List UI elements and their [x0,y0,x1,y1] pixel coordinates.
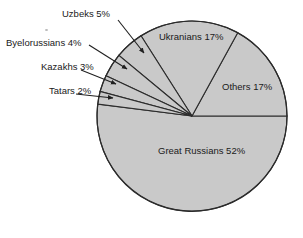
callout-label-byelorussians: Byelorussians 4% [6,37,82,48]
pie-slices [97,21,287,211]
slice-label-others: Others 17% [222,81,272,92]
scan-speck [45,29,48,31]
slice-great-russians[interactable] [97,104,287,211]
slice-label-ukranians: Ukranians 17% [159,31,223,42]
slice-label-great-russians: Great Russians 52% [158,145,245,156]
callout-label-kazakhs: Kazakhs 3% [41,61,94,72]
pie-chart: Ukranians 17% Others 17% Great Russians … [0,0,303,238]
pie-chart-canvas [0,0,303,238]
callout-label-uzbeks: Uzbeks 5% [62,8,110,19]
callout-label-tatars: Tatars 2% [49,85,91,96]
